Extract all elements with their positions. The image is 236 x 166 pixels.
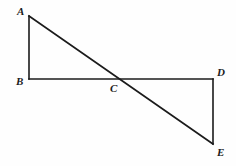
vertex-label-d: D — [217, 67, 225, 78]
segment-ae — [29, 16, 213, 144]
figure-canvas — [0, 0, 236, 166]
vertex-label-c: C — [110, 83, 117, 94]
vertex-label-a: A — [17, 6, 24, 17]
vertex-label-b: B — [16, 76, 23, 87]
geometry-figure: A B C D E — [0, 0, 236, 166]
vertex-label-e: E — [217, 147, 224, 158]
